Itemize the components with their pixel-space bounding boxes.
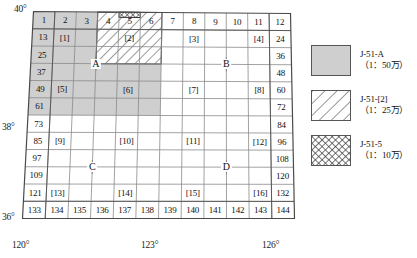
quadrant-mark-A: A (91, 59, 101, 69)
sheet-tag-6: [6] (123, 85, 133, 95)
sheet-tag-15: [15] (186, 188, 200, 198)
longitude-label-126: 126° (262, 240, 279, 250)
quadrant-mark-B: B (221, 59, 231, 69)
sheet-tag-3: [3] (189, 34, 199, 44)
cell-number-bottom-140: 140 (186, 205, 199, 215)
longitude-label-123: 123° (141, 240, 158, 250)
cell-number-top-2: 2 (63, 15, 67, 25)
legend-item-0: J-51-A （1：50万） (311, 44, 415, 76)
cell-number-left-61: 61 (35, 101, 44, 111)
quadrant-mark-D: D (221, 162, 231, 172)
legend-name-0: J-51-A (360, 49, 384, 59)
cell-number-right-60: 60 (277, 85, 286, 95)
cell-number-bottom-134: 134 (50, 205, 63, 215)
sheet-tag-16: [16] (253, 188, 267, 198)
cell-text-layer: 1234567891011121331341351361371381391401… (0, 0, 300, 258)
cell-number-right-48: 48 (276, 68, 285, 78)
longitude-label-120: 120° (12, 240, 29, 250)
legend-item-2: J-51-5 （1：10万） (311, 134, 415, 166)
cell-number-top-5: 5 (128, 16, 132, 26)
sheet-tag-8: [8] (254, 85, 264, 95)
sheet-tag-2: [2] (124, 33, 134, 43)
cell-number-bottom-135: 135 (73, 205, 86, 215)
sheet-tag-12: [12] (253, 137, 267, 147)
cell-number-right-24: 24 (276, 34, 285, 44)
legend-scale-1: （1：25万） (360, 105, 408, 117)
cell-number-bottom-138: 138 (141, 205, 154, 215)
map-index-figure: 1234567891011121331341351361371381391401… (0, 0, 417, 258)
sheet-tag-11: [11] (186, 136, 199, 146)
cell-number-top-8: 8 (192, 16, 196, 26)
cell-number-right-120: 120 (276, 171, 289, 181)
cell-number-right-108: 108 (276, 154, 289, 164)
cell-number-left-121: 121 (29, 188, 42, 198)
legend-label-0: J-51-A （1：50万） (360, 49, 408, 72)
cell-number-left-109: 109 (30, 170, 43, 180)
cell-number-left-97: 97 (33, 153, 42, 163)
latitude-label-36: 36° (2, 212, 15, 222)
cell-number-top-11: 11 (254, 17, 262, 27)
sheet-tag-4: [4] (254, 34, 264, 44)
cell-number-right-84: 84 (277, 120, 286, 130)
cell-number-right-96: 96 (278, 137, 287, 147)
cell-number-top-6: 6 (149, 16, 153, 26)
legend-swatch-cross-hatch (311, 135, 351, 166)
cell-number-bottom-141: 141 (209, 205, 222, 215)
cell-number-left-73: 73 (34, 119, 43, 129)
cell-number-top-3: 3 (85, 16, 89, 26)
sheet-tag-7: [7] (189, 85, 199, 95)
cell-number-top-10: 10 (233, 17, 242, 27)
cell-number-left-85: 85 (33, 136, 42, 146)
cell-number-bottom-143: 143 (254, 205, 267, 215)
legend-name-2: J-51-5 (360, 139, 382, 149)
legend-name-1: J-51-[2] (360, 94, 387, 104)
cell-number-bottom-139: 139 (164, 205, 177, 215)
cell-number-left-49: 49 (36, 84, 45, 94)
cell-number-bottom-133: 133 (28, 205, 41, 215)
sheet-tag-5: [5] (57, 84, 67, 94)
cell-number-left-13: 13 (39, 32, 48, 42)
legend-label-2: J-51-5 （1：10万） (360, 139, 408, 162)
legend-swatch-solid-grey (311, 45, 351, 76)
sheet-tag-14: [14] (118, 188, 132, 198)
legend-scale-0: （1：50万） (360, 60, 408, 72)
cell-number-top-7: 7 (170, 16, 174, 26)
cell-number-left-37: 37 (37, 67, 46, 77)
sheet-tag-9: [9] (55, 136, 65, 146)
legend-scale-2: （1：10万） (360, 150, 408, 162)
legend-item-1: J-51-[2] （1：25万） (311, 89, 415, 121)
cell-number-bottom-136: 136 (96, 205, 109, 215)
legend-swatch-diagonal-hatch (311, 90, 351, 121)
cell-number-left-25: 25 (38, 50, 47, 60)
latitude-label-40: 40° (14, 4, 27, 14)
sheet-tag-1: [1] (60, 33, 70, 43)
cell-number-top-1: 1 (42, 15, 46, 25)
legend: J-51-A （1：50万） J-51-[2] （1：25万） (311, 44, 415, 179)
cell-number-right-72: 72 (277, 102, 286, 112)
cell-number-bottom-144: 144 (277, 205, 290, 215)
cell-number-top-12: 12 (276, 17, 285, 27)
cell-number-right-132: 132 (276, 188, 289, 198)
cell-number-top-9: 9 (213, 17, 217, 27)
latitude-label-38: 38° (2, 122, 15, 132)
cell-number-right-36: 36 (276, 51, 285, 61)
quadrant-mark-C: C (87, 162, 97, 172)
sheet-tag-10: [10] (120, 136, 134, 146)
sheet-tag-13: [13] (51, 188, 65, 198)
legend-label-1: J-51-[2] （1：25万） (360, 94, 408, 117)
cell-number-bottom-137: 137 (118, 205, 131, 215)
cell-number-top-4: 4 (106, 16, 110, 26)
cell-number-bottom-142: 142 (231, 205, 244, 215)
